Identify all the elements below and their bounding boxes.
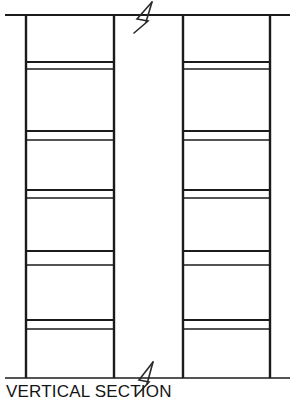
shelves-right-bay-group xyxy=(183,62,270,329)
shelves-left-bay-group xyxy=(26,62,114,329)
section-drawing-canvas xyxy=(0,0,294,409)
break-symbol-top-icon xyxy=(134,2,152,33)
break-symbols-group xyxy=(134,2,153,396)
section-caption-label: VERTICAL SECTION xyxy=(6,382,172,402)
vertical-section-drawing: VERTICAL SECTION xyxy=(0,0,294,409)
